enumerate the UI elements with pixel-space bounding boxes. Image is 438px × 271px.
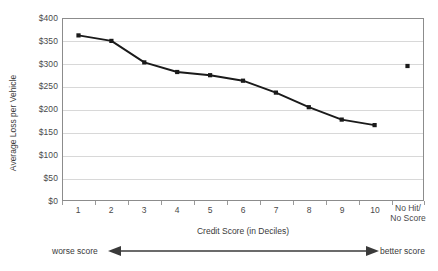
gridline	[63, 64, 423, 65]
plot-area	[62, 18, 424, 201]
gridline	[63, 133, 423, 134]
worse-score-label: worse score	[52, 246, 98, 256]
gridline	[63, 110, 423, 111]
arrow-head-right	[366, 246, 379, 256]
y-tick-label: $0	[4, 196, 58, 206]
y-tick-label: $350	[4, 36, 58, 46]
gridline	[63, 87, 423, 88]
x-tick-label: 2	[109, 205, 114, 215]
x-tick-label: 7	[274, 205, 279, 215]
chart-container: $400 $350 $300 $250 $200 $150 $100 $50 $…	[0, 0, 438, 271]
x-tick-label: 8	[307, 205, 312, 215]
x-tick-label: 3	[142, 205, 147, 215]
better-score-label: better score	[380, 246, 425, 256]
gridline	[63, 156, 423, 157]
x-tick-label: 5	[208, 205, 213, 215]
gridline	[63, 41, 423, 42]
x-tick-label: 6	[241, 205, 246, 215]
x-tick-label-line1: No Hit/	[390, 203, 425, 213]
x-tick-label: 9	[340, 205, 345, 215]
arrow-head-left	[108, 246, 121, 256]
y-axis-title: Average Loss per Vehicle	[8, 58, 18, 188]
gridline	[63, 179, 423, 180]
x-tick-label: 4	[175, 205, 180, 215]
x-axis-title: Credit Score (in Deciles)	[62, 226, 424, 236]
x-tick-label-line2: No Score	[390, 213, 425, 223]
x-tick-label-no-hit: No Hit/ No Score	[390, 203, 425, 223]
x-tick-label: 1	[76, 205, 81, 215]
y-tick-label: $400	[4, 13, 58, 23]
x-tick-label: 10	[370, 205, 379, 215]
